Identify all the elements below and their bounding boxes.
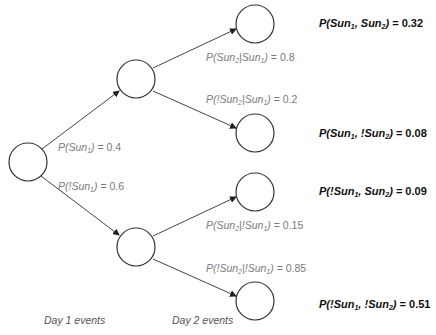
node-notsun1-notsun2 <box>236 282 274 320</box>
edge-label-sun2-given-sun1: P(Sun2|Sun1) = 0.8 <box>206 51 295 63</box>
label-value: = 0.4 <box>95 141 122 153</box>
label-text: |Sun <box>239 51 260 63</box>
joint-text: P(!Sun <box>319 298 354 310</box>
joint-value: = 0.08 <box>393 127 427 139</box>
node-root <box>9 143 47 181</box>
joint-text: P(Sun <box>319 17 351 29</box>
label-value: = 0.6 <box>98 180 125 192</box>
label-text: P(!Sun <box>206 262 238 274</box>
label-text: |!Sun <box>239 219 263 231</box>
joint-value: = 0.09 <box>393 185 427 197</box>
label-value: = 0.8 <box>268 51 295 63</box>
edge-label-sun2-given-notsun1: P(Sun2|!Sun1) = 0.15 <box>206 219 303 231</box>
label-text: P(!Sun <box>58 180 90 192</box>
label-value: = 0.85 <box>274 262 306 274</box>
label-text: P(!Sun <box>206 93 238 105</box>
joint-prob-sun1-notsun2: P(Sun1, !Sun2) = 0.08 <box>319 127 427 140</box>
day1-events-label: Day 1 events <box>44 314 105 326</box>
joint-value: = 0.51 <box>397 298 431 310</box>
joint-text: , !Sun <box>355 127 386 139</box>
edge-label-notsun2-given-sun1: P(!Sun2|Sun1) = 0.2 <box>206 93 297 105</box>
joint-prob-notsun1-sun2: P(!Sun1, Sun2) = 0.09 <box>319 185 427 198</box>
joint-text: P(!Sun <box>319 185 354 197</box>
joint-text: , Sun <box>358 185 385 197</box>
joint-text: P(Sun <box>319 127 351 139</box>
edge-label-notsun2-given-notsun1: P(!Sun2|!Sun1) = 0.85 <box>206 262 306 274</box>
label-text: |Sun <box>242 93 263 105</box>
joint-prob-notsun1-notsun2: P(!Sun1, !Sun2) = 0.51 <box>319 298 430 311</box>
joint-prob-sun1-sun2: P(Sun1, Sun2) = 0.32 <box>319 17 423 30</box>
day2-events-label: Day 2 events <box>172 314 233 326</box>
label-text: P(Sun <box>58 141 87 153</box>
node-sun1-notsun2 <box>236 114 274 152</box>
label-text: P(Sun <box>206 219 235 231</box>
edge-label-sun1: P(Sun1) = 0.4 <box>58 141 121 153</box>
node-sun1 <box>117 60 155 98</box>
label-text: |!Sun <box>242 262 266 274</box>
label-value: = 0.15 <box>271 219 303 231</box>
label-text: P(Sun <box>206 51 235 63</box>
label-value: = 0.2 <box>271 93 298 105</box>
node-notsun1-sun2 <box>236 173 274 211</box>
edge-label-notsun1: P(!Sun1) = 0.6 <box>58 180 124 192</box>
joint-value: = 0.32 <box>389 17 423 29</box>
joint-text: , !Sun <box>358 298 389 310</box>
node-sun1-sun2 <box>236 5 274 43</box>
joint-text: , Sun <box>355 17 382 29</box>
node-notsun1 <box>117 228 155 266</box>
